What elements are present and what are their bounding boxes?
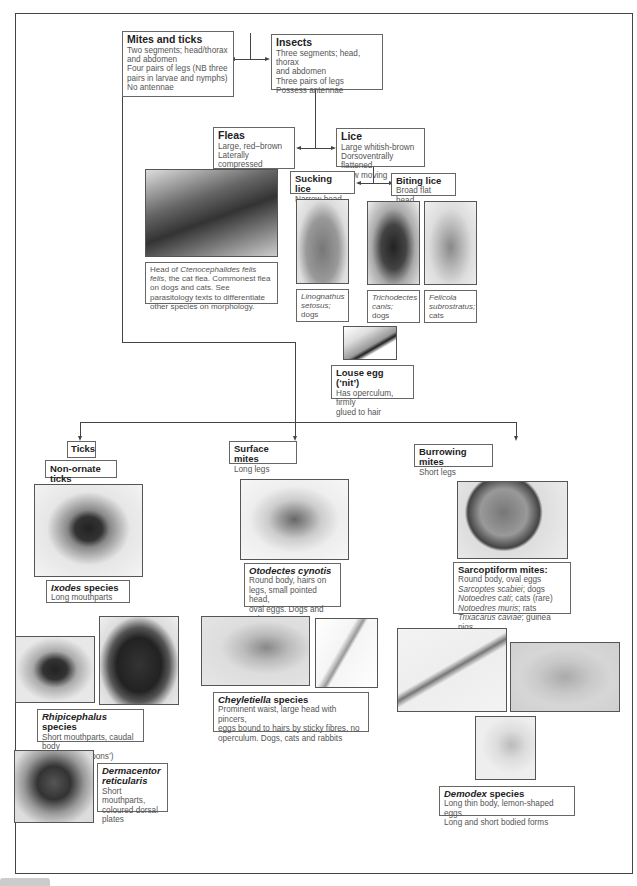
species-suffix: species [42,721,77,732]
connector [315,90,316,148]
text-line: pairs in larvae and nymphs) [127,74,229,83]
otodectes-box: Otodectes cynotis Round body, hairs on l… [244,563,341,607]
louse-egg-title: Louse egg (‘nit’) [336,368,409,389]
louse-egg-box: Louse egg (‘nit’) Has operculum, firmly … [331,365,414,399]
text-line: Large whitish-brown [341,143,420,152]
text-line: No antennae [127,83,229,92]
dermacentor-box: Dermacentor reticularis Short mouthparts… [97,763,168,812]
insects-box: Insects Three segments; head, thorax and… [271,34,383,90]
biting-lice-title: Biting lice [396,176,451,186]
species-suffix: species [487,788,525,799]
text-line: and abdomen [127,55,229,64]
text-line: operculum. Dogs, cats and rabbits [218,734,364,743]
demodex-photo-1 [397,628,507,712]
species-name: Sarcoptes scabiei [458,585,523,594]
surface-mites-title: Surface mites [234,444,292,465]
species-name: Felicola subrostratus; [429,293,472,311]
text-line: Dorsoventrally flattened [341,152,420,171]
caption-text: Head of [150,265,180,274]
connector [232,59,266,60]
sucking-lice-title: Sucking lice [295,174,350,195]
insects-title: Insects [276,37,378,49]
fleas-title: Fleas [218,130,290,142]
ticks-box: Ticks [67,441,96,458]
ixodes-photo [34,484,143,577]
trichodectes-photo [367,201,420,285]
text-line: and abdomen [276,67,378,76]
ticks-title: Ticks [71,444,92,454]
cheyletiella-photo-1 [201,616,310,686]
species-name: Demodex [444,788,487,799]
arrow-right-icon [265,57,270,61]
ixodes-box: Ixodes species Long mouthparts [46,580,130,603]
sarcoptiform-title: Sarcoptiform mites: [458,565,566,575]
species-name: Otodectes cynotis [249,565,331,576]
host-text: dogs [301,310,344,319]
text-line: Large, red–brown [218,142,290,151]
connector [358,183,390,184]
otodectes-photo [240,479,349,560]
text-line: Two segments; head/thorax [127,46,229,55]
species-name: Cheyletiella [218,694,271,705]
species-name: Notoedres muris [458,604,518,613]
text-line: glued to hair [336,408,409,417]
species-name: Ixodes [51,582,81,593]
biting-lice-box: Biting lice Broad flat head [391,173,456,196]
burrowing-mites-box: Burrowing mites Short legs [414,444,493,467]
non-ornate-ticks-box: Non-ornate ticks [45,460,117,478]
felicola-caption: Felicola subrostratus; cats [424,290,477,323]
text-line: Has operculum, firmly [336,389,409,408]
species-line: Notoedres cati; cats (rare) [458,594,566,603]
text-line: legs, small pointed head, [249,586,336,605]
text-line: Round body, hairs on [249,576,336,585]
rhipicephalus-box: Rhipicephalus species Short mouthparts, … [37,709,144,742]
text-line: Short legs [419,468,488,477]
sarcoptiform-photo [457,481,568,559]
rhipicephalus-photo-2 [99,616,179,705]
species-name: Dermacentor [102,765,161,776]
flea-caption: Head of Ctenocephalides felis felis, the… [145,262,278,304]
host-text: ; cats (rare) [511,594,553,603]
species-name: Rhipicephalus [42,711,107,722]
text-line: Short mouthparts, [102,787,163,806]
connector [80,422,516,423]
connector [295,342,296,438]
species-name: Linognathus setosus; [301,292,344,310]
rhipicephalus-photo-1 [15,636,95,703]
text-line: Laterally compressed [218,151,290,170]
sarcoptiform-box: Sarcoptiform mites: Round body, oval egg… [453,562,571,614]
connector [250,33,251,60]
text-line: Long thin body, lemon-shaped eggs. [444,799,570,818]
lice-title: Lice [341,131,420,143]
text-line: Long mouthparts [51,593,125,602]
connector [298,148,332,149]
text-line: Three segments; head, thorax [276,49,378,68]
flea-head-photo [145,169,278,257]
demodex-photo-3 [475,716,536,780]
text-line: Short mouthparts, caudal body [42,733,139,752]
species-name: reticularis [102,775,147,786]
surface-mites-box: Surface mites Long legs [229,441,297,464]
text-line: Four pairs of legs (NB three [127,64,229,73]
host-text: ; rats [518,604,536,613]
species-name: Trixacarus caviae [458,613,522,622]
arrow-left-icon [296,146,301,150]
page-tab [0,878,50,886]
mites-ticks-box: Mites and ticks Two segments; head/thora… [122,31,234,97]
trichodectes-caption: Trichodectes canis; dogs [367,290,420,323]
host-text: ; dogs [523,585,545,594]
text-line: Prominent waist, large head with pincers… [218,705,364,724]
text-line: Long and short bodied forms [444,818,570,827]
text-line: plates [102,815,163,824]
non-ornate-ticks-title: Non-ornate ticks [50,464,112,485]
felicola-photo [424,201,477,285]
species-suffix: species [271,694,309,705]
text-line: coloured dorsal [102,806,163,815]
text-line: eggs bound to hairs by sticky fibres, no [218,724,364,733]
linognathus-caption: Linognathus setosus; dogs [296,289,349,322]
mites-ticks-title: Mites and ticks [127,34,229,46]
connector [122,342,295,343]
text-line: Round body, oval eggs [458,575,566,584]
sucking-lice-box: Sucking lice Narrow head [290,171,355,194]
host-text: cats [429,311,472,320]
